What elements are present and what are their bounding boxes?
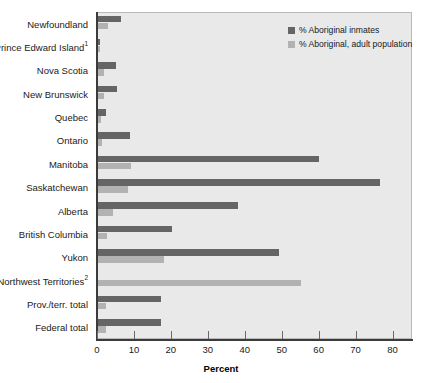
bar-inmates	[98, 156, 319, 163]
bar-group	[98, 129, 412, 152]
bar-row: Federal total	[0, 316, 442, 339]
bar-group	[98, 222, 412, 245]
bar-row: Alberta	[0, 199, 442, 222]
bar-group	[98, 82, 412, 105]
bar-population	[98, 209, 113, 216]
bar-row: Northwest Territories2	[0, 269, 442, 292]
x-axis-tick-label: 60	[313, 344, 324, 355]
category-label: Federal total	[35, 322, 88, 333]
category-label: Prov./terr. total	[27, 298, 88, 309]
legend-item-population: % Aboriginal, adult population	[288, 38, 412, 50]
bar-group	[98, 59, 412, 82]
x-axis-tick-label: 40	[239, 344, 250, 355]
bar-population	[98, 233, 107, 240]
bar-row: New Brunswick	[0, 82, 442, 105]
bar-population	[98, 186, 128, 193]
bar-row: Prov./terr. total	[0, 292, 442, 315]
bar-population	[98, 23, 108, 30]
bar-population	[98, 46, 100, 53]
bar-group	[98, 316, 412, 339]
bar-population	[98, 163, 131, 170]
legend-swatch-icon-inmates	[288, 27, 295, 34]
bar-inmates	[98, 319, 161, 326]
bar-row: Ontario	[0, 129, 442, 152]
legend-label-population: % Aboriginal, adult population	[299, 38, 412, 50]
category-label: Newfoundland	[27, 18, 88, 29]
category-label: Prince Edward Island1	[0, 42, 88, 53]
chart-container: NewfoundlandPrince Edward Island1Nova Sc…	[0, 0, 442, 383]
bar-population	[98, 280, 301, 287]
bar-inmates	[98, 179, 380, 186]
bar-inmates	[98, 62, 116, 69]
category-label: Yukon	[62, 252, 88, 263]
bar-population	[98, 256, 164, 263]
x-axis-tick-label: 50	[276, 344, 287, 355]
x-axis-tick-label: 30	[203, 344, 214, 355]
bar-inmates	[98, 202, 238, 209]
bar-inmates	[98, 296, 161, 303]
category-label: Saskatchewan	[26, 182, 88, 193]
bar-inmates	[98, 226, 172, 233]
bar-group	[98, 152, 412, 175]
bar-population	[98, 139, 102, 146]
bar-group	[98, 246, 412, 269]
x-axis-tick-label: 10	[129, 344, 140, 355]
x-axis-title: Percent	[0, 363, 442, 374]
bar-inmates	[98, 249, 279, 256]
bar-population	[98, 93, 104, 100]
bar-row: Manitoba	[0, 152, 442, 175]
x-axis-tick-label: 70	[350, 344, 361, 355]
bar-population	[98, 326, 106, 333]
category-label: Nova Scotia	[37, 65, 88, 76]
bar-inmates	[98, 39, 100, 46]
bar-inmates	[98, 86, 117, 93]
bar-inmates	[98, 16, 121, 23]
x-axis-tick-label: 20	[166, 344, 177, 355]
bar-group	[98, 269, 412, 292]
chart-legend: % Aboriginal inmates % Aboriginal, adult…	[288, 24, 412, 52]
category-label: Northwest Territories2	[0, 275, 88, 286]
x-axis-line	[96, 339, 413, 341]
x-axis-tick-label: 0	[94, 344, 99, 355]
category-label: New Brunswick	[23, 88, 88, 99]
bar-group	[98, 292, 412, 315]
bar-rows: NewfoundlandPrince Edward Island1Nova Sc…	[0, 12, 442, 339]
bar-row: Nova Scotia	[0, 59, 442, 82]
legend-label-inmates: % Aboriginal inmates	[299, 24, 379, 36]
bar-group	[98, 176, 412, 199]
bar-group	[98, 199, 412, 222]
bar-group	[98, 105, 412, 128]
category-label: Quebec	[55, 112, 88, 123]
category-label: Alberta	[58, 205, 88, 216]
category-label: British Columbia	[19, 228, 88, 239]
category-footnote-marker: 1	[84, 40, 88, 47]
bar-row: Saskatchewan	[0, 176, 442, 199]
bar-row: British Columbia	[0, 222, 442, 245]
bar-population	[98, 69, 104, 76]
bar-inmates	[98, 132, 130, 139]
x-axis-tick-label: 80	[387, 344, 398, 355]
category-label: Manitoba	[49, 158, 88, 169]
category-footnote-marker: 2	[84, 274, 88, 281]
legend-item-inmates: % Aboriginal inmates	[288, 24, 412, 36]
bar-population	[98, 303, 106, 310]
category-label: Ontario	[57, 135, 88, 146]
legend-swatch-icon-population	[288, 41, 295, 48]
bar-population	[98, 116, 101, 123]
bar-row: Yukon	[0, 246, 442, 269]
bar-inmates	[98, 109, 106, 116]
bar-row: Quebec	[0, 105, 442, 128]
